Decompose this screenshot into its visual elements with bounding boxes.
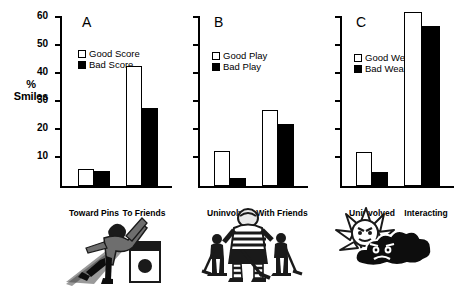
panel-c-bar-interacting-good <box>404 12 422 186</box>
panel-a-plot-area <box>62 18 172 186</box>
panel-b-tick-40 <box>193 72 200 74</box>
panel-a-ticklabel-10: 10 <box>37 151 48 161</box>
panel-a-ticklabel-20: 20 <box>37 123 48 133</box>
panel-a-tick-60: 60 <box>55 16 62 18</box>
panel-a-tick-40: 40 <box>55 72 62 74</box>
y-axis-label-line2: Smiles <box>2 90 60 102</box>
y-axis-label: % Smiles <box>2 78 60 102</box>
panel-c-plot-area <box>342 18 454 186</box>
panel-a-ticklabel-40: 40 <box>37 67 48 77</box>
panel-a-bar-toward-pins-good <box>78 169 94 186</box>
panel-c-tick-50 <box>335 44 342 46</box>
panel-c-bar-uninvolved-good <box>356 152 372 186</box>
panel-b: B Good Play Bad Play Uninvolved <box>198 14 310 192</box>
illustration-hockey-players <box>196 206 304 286</box>
panel-c: C Good Weather Bad Weather Uninvol <box>340 14 456 192</box>
panel-b-tick-30 <box>193 100 200 102</box>
panel-a-bar-to-friends-good <box>126 66 142 186</box>
panel-c-bar-interacting-bad <box>422 26 440 186</box>
panel-a-tick-10: 10 <box>55 156 62 158</box>
panel-b-plot-area <box>200 18 308 186</box>
illustration-bowler <box>60 206 175 288</box>
panel-c-bar-uninvolved-bad <box>372 172 388 186</box>
panel-a-tick-50: 50 <box>55 44 62 46</box>
figure-three-panel-bar-charts: % Smiles A 60 50 40 30 20 10 Good Score <box>0 0 457 292</box>
panel-a-bar-toward-pins-bad <box>94 171 110 186</box>
illustration-sun-and-cloud <box>332 206 450 278</box>
y-axis-label-line1: % <box>2 78 60 90</box>
panel-a-ticklabel-60: 60 <box>37 11 48 21</box>
panel-a-ticklabel-50: 50 <box>37 39 48 49</box>
panel-b-bar-with-friends-good <box>262 110 278 186</box>
panel-a-bar-to-friends-bad <box>142 108 158 186</box>
panel-a: A 60 50 40 30 20 10 Good Score <box>60 14 172 192</box>
panel-a-tick-30: 30 <box>55 100 62 102</box>
panel-b-tick-50 <box>193 44 200 46</box>
panel-b-bar-uninvolved-bad <box>230 178 246 186</box>
panel-c-tick-40 <box>335 72 342 74</box>
panel-b-x-axis <box>198 186 308 188</box>
panel-c-x-axis <box>340 186 454 188</box>
panel-b-bar-uninvolved-good <box>214 151 230 186</box>
panel-b-tick-60 <box>193 16 200 18</box>
panel-a-ticklabel-30: 30 <box>37 95 48 105</box>
panel-b-bar-with-friends-bad <box>278 124 294 186</box>
panel-a-tick-20: 20 <box>55 128 62 130</box>
panel-b-tick-10 <box>193 156 200 158</box>
panel-c-tick-60 <box>335 16 342 18</box>
panel-c-tick-20 <box>335 128 342 130</box>
panel-b-tick-20 <box>193 128 200 130</box>
panel-a-x-axis <box>60 186 172 188</box>
panel-c-tick-10 <box>335 156 342 158</box>
panel-c-tick-30 <box>335 100 342 102</box>
